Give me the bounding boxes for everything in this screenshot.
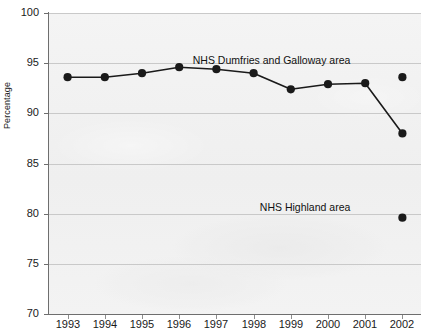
y-axis-title: Percentage [2, 82, 12, 129]
data-point-marker [101, 73, 109, 81]
y-tick-mark [44, 214, 49, 215]
x-tick-label: 1996 [159, 318, 199, 330]
y-tick-label: 90 [9, 107, 39, 118]
data-point-marker [175, 63, 183, 71]
y-tick-label: 70 [9, 308, 39, 319]
data-point-marker [64, 73, 72, 81]
data-point-marker [398, 73, 406, 81]
line-chart: 100959085807570 199319941995199619971998… [0, 0, 425, 331]
y-tick-label: 80 [9, 208, 39, 219]
series-label: NHS Dumfries and Galloway area [193, 55, 351, 66]
y-tick-mark [44, 13, 49, 14]
scan-edge-artifact [0, 0, 425, 2]
y-tick-label: 85 [9, 158, 39, 169]
data-point-marker [361, 79, 369, 87]
series-line [68, 67, 403, 133]
x-tick-label: 2001 [345, 318, 385, 330]
data-point-marker [138, 69, 146, 77]
y-tick-label: 100 [9, 7, 39, 18]
x-tick-label: 1995 [122, 318, 162, 330]
y-tick-label: 75 [9, 258, 39, 269]
x-tick-label: 2002 [382, 318, 422, 330]
x-tick-label: 1997 [196, 318, 236, 330]
y-tick-mark [44, 314, 49, 315]
x-tick-label: 1999 [271, 318, 311, 330]
x-tick-label: 1994 [85, 318, 125, 330]
data-point-marker [324, 80, 332, 88]
y-tick-mark [44, 113, 49, 114]
y-tick-mark [44, 164, 49, 165]
data-point-marker [287, 85, 295, 93]
x-tick-label: 2000 [308, 318, 348, 330]
x-tick-label: 1998 [234, 318, 274, 330]
data-point-marker [250, 69, 258, 77]
data-point-marker [398, 129, 406, 137]
x-tick-label: 1993 [48, 318, 88, 330]
data-point-marker [398, 214, 406, 222]
y-tick-mark [44, 63, 49, 64]
series-label: NHS Highland area [260, 202, 350, 213]
data-point-marker [212, 65, 220, 73]
y-tick-mark [44, 264, 49, 265]
y-tick-label: 95 [9, 57, 39, 68]
